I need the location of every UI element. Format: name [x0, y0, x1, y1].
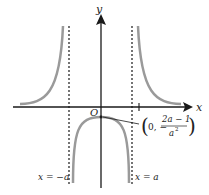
x-axis-label: x	[196, 101, 203, 114]
origin-label: O	[90, 107, 98, 118]
annotation-leader	[103, 117, 139, 124]
right-asymptote-label: x = a	[135, 172, 159, 182]
annotation-numerator: 2a − 1	[161, 114, 190, 124]
point-annotation: ( 0, − 2a − 1 a 2 )	[141, 114, 196, 138]
annotation-denominator-exponent: 2	[175, 126, 179, 132]
annotation-close-paren: )	[188, 114, 196, 138]
left-asymptote-label: x = −a	[38, 172, 69, 182]
curve-upper-left	[20, 26, 63, 104]
function-graph: y x O x = −a x = a ( 0, − 2a − 1 a 2 )	[0, 0, 209, 195]
y-axis-label: y	[95, 3, 103, 16]
annotation-denominator: a	[169, 128, 174, 138]
curve-upper-right	[138, 26, 181, 104]
y-intercept-point	[100, 116, 103, 119]
